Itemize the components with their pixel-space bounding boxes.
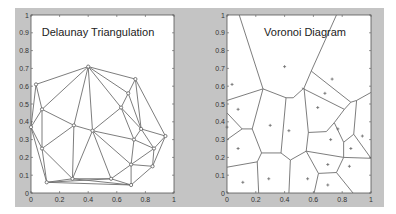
data-point-marker: [40, 108, 43, 111]
y-tick-label: 1: [221, 12, 225, 19]
data-point-marker: [45, 181, 48, 184]
x-tick-label: 0: [29, 196, 33, 203]
x-tick-label: 0.2: [251, 196, 261, 203]
x-tick-label: 1: [369, 196, 373, 203]
delaunay-axes: 00.10.20.30.40.50.60.70.80.9100.20.40.60…: [19, 12, 176, 204]
data-point-marker: [29, 126, 32, 129]
y-tick-label: 0.1: [19, 172, 29, 179]
y-tick-label: 0.8: [215, 47, 225, 54]
data-point-marker: [127, 92, 130, 95]
y-tick-label: 0.3: [19, 136, 29, 143]
y-tick-label: 0.4: [215, 118, 225, 125]
x-tick-label: 0.6: [309, 196, 319, 203]
x-tick-label: 1: [172, 196, 176, 203]
data-point-marker: [119, 106, 122, 109]
voronoi-axes: 00.10.20.30.40.50.60.70.80.9100.20.40.60…: [215, 12, 373, 204]
y-tick-label: 0.7: [19, 65, 29, 72]
data-point-marker: [72, 124, 75, 127]
figure: 00.10.20.30.40.50.60.70.80.9100.20.40.60…: [0, 0, 396, 214]
x-tick-label: 0.4: [280, 196, 290, 203]
y-tick-label: 0.5: [215, 101, 225, 108]
x-tick-label: 0: [225, 196, 229, 203]
data-point-marker: [152, 147, 155, 150]
data-point-marker: [91, 129, 94, 132]
data-point-marker: [34, 83, 37, 86]
data-point-marker: [109, 177, 112, 180]
y-tick-label: 0.8: [19, 47, 29, 54]
y-tick-label: 0.3: [215, 136, 225, 143]
data-point-marker: [132, 138, 135, 141]
data-point-marker: [130, 163, 133, 166]
data-point-marker: [134, 77, 137, 80]
data-point-marker: [87, 65, 90, 68]
y-tick-label: 0.6: [19, 83, 29, 90]
x-tick-label: 0.6: [112, 196, 122, 203]
data-point-marker: [140, 127, 143, 130]
y-tick-label: 0.9: [19, 29, 29, 36]
data-point-marker: [40, 147, 43, 150]
data-point-marker: [151, 165, 154, 168]
data-point-marker: [71, 177, 74, 180]
y-tick-label: 0.7: [215, 65, 225, 72]
x-tick-label: 0.4: [83, 196, 93, 203]
y-tick-label: 0.2: [215, 154, 225, 161]
y-tick-label: 0.2: [19, 154, 29, 161]
y-tick-label: 0.4: [19, 118, 29, 125]
voronoi-title: Voronoi Diagram: [264, 26, 346, 38]
y-tick-label: 0.1: [215, 172, 225, 179]
y-tick-label: 0.6: [215, 83, 225, 90]
data-point-marker: [130, 183, 133, 186]
y-tick-label: 0.5: [19, 101, 29, 108]
x-tick-label: 0.8: [337, 196, 347, 203]
x-tick-label: 0.2: [55, 196, 65, 203]
delaunay-title: Delaunay Triangulation: [42, 26, 155, 38]
y-tick-label: 0.9: [215, 29, 225, 36]
x-tick-label: 0.8: [141, 196, 151, 203]
data-point-marker: [164, 134, 167, 137]
y-tick-label: 1: [25, 12, 29, 19]
